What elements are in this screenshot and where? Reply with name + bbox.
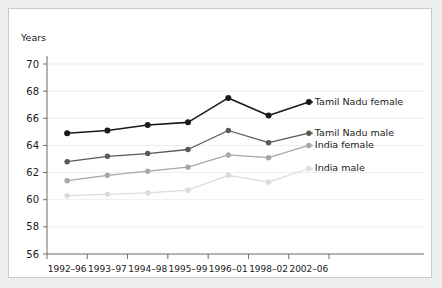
line-chart: 5658606264666870 1992–961993–971994–9819… (9, 9, 433, 279)
y-tick-label: 68 (26, 86, 39, 97)
y-tick-label: 60 (26, 194, 39, 205)
x-tick-label: 1996–01 (209, 264, 248, 274)
data-point-marker (64, 178, 69, 183)
y-tick-label: 58 (26, 221, 39, 232)
chart-legend: Tamil Nadu femaleTamil Nadu maleIndia fe… (309, 96, 404, 174)
data-point-marker (266, 179, 271, 184)
y-tick-label: 56 (26, 249, 39, 260)
legend-label: India male (315, 162, 365, 173)
data-point-marker (266, 140, 271, 145)
data-point-marker (145, 122, 151, 128)
x-tick-label: 2002–06 (289, 264, 328, 274)
data-point-marker (185, 188, 190, 193)
data-point-marker (145, 169, 150, 174)
data-point-marker (185, 164, 190, 169)
legend-label: India female (315, 139, 374, 150)
x-tick-label: 1992–96 (48, 264, 87, 274)
y-axis-tick-labels: 5658606264666870 (26, 59, 39, 260)
series-line (67, 98, 309, 133)
data-point-marker (145, 151, 150, 156)
x-tick-label: 1998–02 (249, 264, 288, 274)
data-point-marker (226, 128, 231, 133)
y-tick-label: 62 (26, 167, 39, 178)
data-point-marker (104, 128, 110, 134)
y-tick-label: 64 (26, 140, 39, 151)
data-point-marker (185, 119, 191, 125)
chart-figure: 5658606264666870 1992–961993–971994–9819… (8, 8, 432, 278)
y-tick-label: 66 (26, 113, 39, 124)
y-axis-title: Years (20, 32, 46, 43)
data-point-marker (145, 190, 150, 195)
data-point-marker (105, 173, 110, 178)
data-point-marker (226, 173, 231, 178)
data-point-marker (226, 152, 231, 157)
x-tick-label: 1994–98 (128, 264, 167, 274)
data-point-marker (185, 147, 190, 152)
data-point-marker (266, 155, 271, 160)
data-point-marker (64, 159, 69, 164)
x-axis-tick-labels: 1992–961993–971994–981995–991996–011998–… (48, 264, 329, 274)
data-point-marker (64, 193, 69, 198)
legend-label: Tamil Nadu female (314, 96, 404, 107)
data-series (64, 95, 312, 198)
data-point-marker (266, 113, 272, 119)
x-tick-label: 1995–99 (169, 264, 208, 274)
data-point-marker (225, 95, 231, 101)
y-tick-label: 70 (26, 59, 39, 70)
x-tick-label: 1993–97 (88, 264, 127, 274)
data-point-marker (105, 192, 110, 197)
data-point-marker (105, 154, 110, 159)
legend-label: Tamil Nadu male (314, 127, 394, 138)
data-point-marker (64, 130, 70, 136)
